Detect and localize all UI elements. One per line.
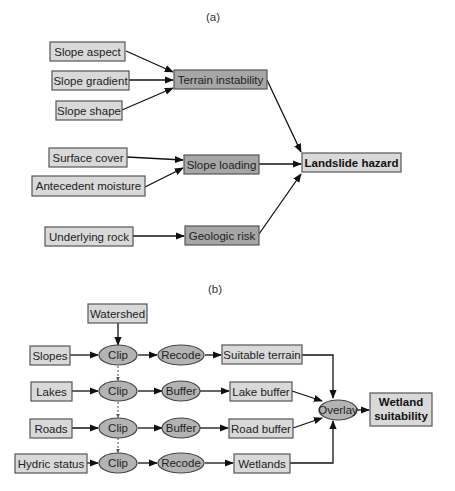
svg-text:Slope aspect: Slope aspect	[54, 46, 121, 58]
op-overlay: Overlay	[318, 400, 358, 420]
node-wetland-suitability: Wetland suitability	[370, 393, 432, 426]
op-clip-1: Clip	[99, 345, 137, 365]
node-antecedent-moisture: Antecedent moisture	[32, 176, 145, 196]
svg-text:Clip: Clip	[108, 385, 128, 397]
panel-b-label: (b)	[208, 283, 222, 295]
op-recode-2: Recode	[158, 453, 204, 473]
svg-text:Buffer: Buffer	[166, 385, 197, 397]
node-lake-buffer: Lake buffer	[230, 382, 292, 401]
node-slope-gradient: Slope gradient	[52, 71, 129, 90]
svg-text:Slope shape: Slope shape	[57, 105, 121, 117]
node-wetlands: Wetlands	[234, 454, 290, 473]
node-road-buffer: Road buffer	[229, 419, 293, 438]
node-terrain-instability: Terrain instability	[174, 70, 267, 89]
svg-text:Geologic risk: Geologic risk	[189, 230, 256, 242]
op-clip-4: Clip	[99, 453, 137, 473]
svg-text:Recode: Recode	[161, 457, 201, 469]
node-hydric-status: Hydric status	[15, 454, 87, 473]
svg-text:Watershed: Watershed	[90, 308, 145, 320]
node-slope-shape: Slope shape	[56, 101, 122, 120]
svg-text:Slope loading: Slope loading	[187, 159, 257, 171]
svg-text:Suitable terrain: Suitable terrain	[223, 349, 300, 361]
panel-a-label: (a)	[206, 11, 220, 23]
svg-text:Clip: Clip	[108, 422, 128, 434]
node-surface-cover: Surface cover	[49, 148, 127, 167]
svg-text:Overlay: Overlay	[318, 404, 358, 416]
node-watershed: Watershed	[88, 304, 147, 323]
node-slope-loading: Slope loading	[184, 155, 259, 174]
svg-text:Recode: Recode	[161, 349, 201, 361]
node-suitable-terrain: Suitable terrain	[222, 345, 302, 364]
op-clip-2: Clip	[99, 381, 137, 401]
svg-text:Roads: Roads	[34, 423, 67, 435]
op-buffer-1: Buffer	[162, 381, 200, 401]
svg-text:Lakes: Lakes	[36, 386, 67, 398]
node-geologic-risk: Geologic risk	[185, 226, 259, 245]
flowchart-canvas: (a) Slope aspect Slope gradient Slope sh…	[0, 0, 455, 491]
svg-text:Antecedent moisture: Antecedent moisture	[36, 180, 141, 192]
svg-text:Buffer: Buffer	[166, 422, 197, 434]
op-buffer-2: Buffer	[162, 418, 200, 438]
svg-text:Clip: Clip	[108, 349, 128, 361]
svg-text:Hydric status: Hydric status	[18, 458, 85, 470]
svg-text:Clip: Clip	[108, 457, 128, 469]
svg-text:Wetlands: Wetlands	[238, 458, 286, 470]
node-underlying-rock: Underlying rock	[45, 227, 133, 246]
svg-text:Surface cover: Surface cover	[53, 152, 124, 164]
svg-text:Lake buffer: Lake buffer	[232, 386, 290, 398]
node-lakes: Lakes	[31, 382, 72, 401]
svg-text:Road buffer: Road buffer	[231, 423, 291, 435]
op-recode-1: Recode	[158, 345, 204, 365]
node-slopes: Slopes	[30, 346, 70, 365]
svg-text:Slope gradient: Slope gradient	[53, 75, 128, 87]
svg-text:Terrain instability: Terrain instability	[178, 74, 264, 86]
svg-text:suitability: suitability	[374, 410, 428, 422]
node-slope-aspect: Slope aspect	[50, 42, 125, 61]
svg-text:Slopes: Slopes	[32, 350, 67, 362]
node-roads: Roads	[30, 419, 72, 438]
node-landslide-hazard: Landslide hazard	[302, 153, 401, 172]
op-clip-3: Clip	[99, 418, 137, 438]
svg-text:Underlying rock: Underlying rock	[49, 231, 129, 243]
svg-text:Wetland: Wetland	[379, 396, 424, 408]
svg-text:Landslide hazard: Landslide hazard	[305, 157, 399, 169]
